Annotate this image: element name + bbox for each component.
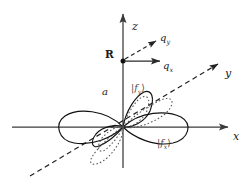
q-y-vector: [125, 41, 156, 59]
q-x-subscript: x: [169, 66, 173, 74]
q-x-vector-label: qx: [163, 61, 173, 73]
distance-label: a: [102, 87, 108, 97]
z-axis-label: z: [132, 21, 138, 32]
site-point-label: R: [105, 49, 114, 60]
ket-fx-close: ⟩: [167, 137, 171, 148]
y-axis: [30, 64, 218, 176]
q-y-vector-label: qy: [160, 33, 170, 45]
orbital-coordinate-diagram: z x y R a qx qy |fy⟩ |fx⟩: [0, 0, 249, 184]
ket-fy-close: ⟩: [141, 82, 145, 93]
ket-fy-open: |f: [131, 82, 138, 93]
diagram-canvas: [0, 0, 249, 184]
f-x-orbital-label: |fx⟩: [157, 138, 171, 150]
y-axis-label: y: [225, 68, 231, 79]
q-y-subscript: y: [166, 38, 170, 46]
f-y-orbital-label: |fy⟩: [131, 83, 145, 95]
x-axis-label: x: [233, 131, 239, 142]
f-y-orbital: [91, 96, 172, 164]
ket-fx-open: |f: [157, 137, 164, 148]
